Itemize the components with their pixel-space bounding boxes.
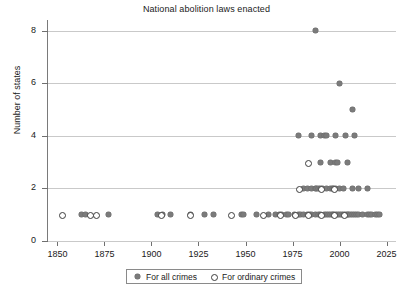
legend-entry-0: For all crimes: [133, 272, 197, 282]
data-point: [318, 186, 325, 193]
data-point: [335, 160, 340, 165]
data-point: [356, 212, 361, 217]
data-point: [168, 212, 173, 217]
chart-figure: National abolition laws enacted Number o…: [0, 0, 413, 296]
x-tick-label-1950: 1950: [226, 249, 266, 259]
open-circle-icon: [209, 272, 218, 281]
data-point: [318, 160, 323, 165]
y-tick-label-2: 2: [10, 182, 36, 192]
data-point: [328, 212, 333, 217]
data-point: [377, 212, 382, 217]
data-point: [360, 212, 365, 217]
data-point: [333, 212, 338, 217]
gridline-y-4: [48, 136, 396, 137]
data-point: [346, 212, 351, 217]
data-point: [318, 212, 325, 219]
data-point: [373, 212, 378, 217]
data-point: [277, 212, 282, 217]
x-tick-label-2025: 2025: [367, 249, 407, 259]
data-point: [365, 212, 370, 217]
legend-label: For ordinary crimes: [222, 272, 295, 282]
data-point: [260, 212, 267, 219]
data-point: [345, 212, 350, 217]
data-point: [307, 212, 312, 217]
data-point: [352, 212, 357, 217]
data-point: [350, 107, 355, 112]
data-point: [301, 212, 306, 217]
data-point: [318, 212, 323, 217]
chart-legend: For all crimesFor ordinary crimes: [126, 269, 302, 284]
data-point: [155, 212, 160, 217]
data-point: [286, 212, 291, 217]
data-point: [239, 212, 244, 217]
data-point: [292, 212, 297, 217]
data-point: [309, 212, 314, 217]
plot-area: [48, 20, 396, 241]
x-tick-label-1925: 1925: [178, 249, 218, 259]
data-point: [339, 212, 344, 217]
data-point: [228, 212, 235, 219]
data-point: [277, 212, 284, 219]
x-tick-label-2000: 2000: [320, 249, 360, 259]
data-point: [284, 212, 289, 217]
data-point: [316, 212, 321, 217]
data-point: [87, 212, 94, 219]
data-point: [79, 212, 84, 217]
y-tick-label-8: 8: [10, 25, 36, 35]
data-point: [367, 212, 372, 217]
data-point: [331, 186, 338, 193]
data-point: [337, 212, 342, 217]
data-point: [343, 212, 348, 217]
data-point: [211, 212, 216, 217]
x-tick-label-1875: 1875: [84, 249, 124, 259]
x-tick-label-1975: 1975: [273, 249, 313, 259]
data-point: [202, 212, 207, 217]
data-point: [348, 212, 353, 217]
data-point: [254, 212, 259, 217]
gridline-y-6: [48, 83, 396, 84]
data-point: [313, 212, 318, 217]
data-point: [333, 160, 338, 165]
x-tick-label-1900: 1900: [131, 249, 171, 259]
data-point: [160, 212, 165, 217]
data-point: [266, 212, 271, 217]
y-tick-label-0: 0: [10, 235, 36, 245]
data-point: [354, 212, 359, 217]
data-point: [335, 212, 340, 217]
data-point: [375, 212, 380, 217]
data-point: [241, 212, 246, 217]
data-point: [305, 212, 312, 219]
chart-title: National abolition laws enacted: [0, 4, 413, 14]
data-point: [292, 212, 299, 219]
data-point: [322, 212, 327, 217]
data-point: [158, 212, 165, 219]
x-tick-label-1850: 1850: [37, 249, 77, 259]
y-tick-label-6: 6: [10, 77, 36, 87]
data-point: [331, 212, 338, 219]
data-point: [273, 212, 278, 217]
legend-entry-1: For ordinary crimes: [209, 272, 295, 282]
data-point: [369, 212, 374, 217]
gridline-y-0: [48, 241, 396, 242]
data-point: [279, 212, 284, 217]
data-point: [341, 212, 346, 217]
data-point: [59, 212, 66, 219]
data-point: [106, 212, 111, 217]
data-point: [188, 212, 193, 217]
data-point: [296, 212, 301, 217]
data-point: [93, 212, 100, 219]
y-tick-label-4: 4: [10, 130, 36, 140]
data-point: [296, 186, 303, 193]
data-point: [83, 212, 88, 217]
data-point: [326, 212, 331, 217]
data-point: [330, 212, 335, 217]
data-point: [341, 212, 348, 219]
data-point: [328, 160, 333, 165]
data-point: [350, 212, 355, 217]
data-point: [298, 212, 303, 217]
data-point: [345, 160, 350, 165]
data-point: [187, 212, 194, 219]
filled-diamond-icon: [133, 272, 142, 281]
legend-label: For all crimes: [146, 272, 197, 282]
data-point: [305, 160, 312, 167]
